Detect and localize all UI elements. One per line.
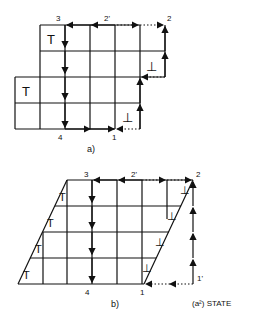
figure-a <box>15 25 165 129</box>
label-4: 4 <box>58 133 63 142</box>
caption-a: a) <box>87 144 95 154</box>
figure-b-grid <box>18 180 193 284</box>
label-1: 1 <box>112 133 117 142</box>
label-3: 3 <box>56 14 61 23</box>
edge-dislocation-negative-symbol: ⊥ <box>122 110 133 125</box>
edge-dislocation-positive-symbol: T <box>47 32 55 47</box>
label-1-prime: 1' <box>197 274 203 283</box>
edge-dislocation-positive-symbol: T <box>47 217 54 229</box>
figure-b-labels: 3 2' 2 1' 4 1 T T T T ⊥ ⊥ ⊥ ⊥ b) (a²) ST… <box>23 170 231 309</box>
edge-dislocation-positive-symbol: T <box>59 191 66 203</box>
label-2-prime: 2' <box>131 170 137 179</box>
edge-dislocation-negative-symbol: ⊥ <box>142 262 152 274</box>
edge-dislocation-positive-symbol: T <box>35 243 42 255</box>
edge-dislocation-positive-symbol: T <box>22 84 30 99</box>
figure-a-labels: 3 2' 2 4 1 T T ⊥ ⊥ a) <box>22 14 172 154</box>
label-2: 2 <box>196 170 201 179</box>
state-label: (a²) STATE <box>192 299 231 308</box>
edge-dislocation-negative-symbol: ⊥ <box>155 236 165 248</box>
edge-dislocation-positive-symbol: T <box>23 269 30 281</box>
label-1: 1 <box>140 288 145 297</box>
diagram-canvas: 3 2' 2 4 1 T T ⊥ ⊥ a) <box>0 0 266 323</box>
label-2: 2 <box>167 14 172 23</box>
label-4: 4 <box>85 288 90 297</box>
caption-b: b) <box>111 299 119 309</box>
label-2-prime: 2' <box>104 14 110 23</box>
edge-dislocation-negative-symbol: ⊥ <box>146 59 157 74</box>
label-3: 3 <box>84 170 89 179</box>
figure-b <box>18 180 193 284</box>
edge-dislocation-negative-symbol: ⊥ <box>167 210 177 222</box>
edge-dislocation-negative-symbol: ⊥ <box>180 184 190 196</box>
